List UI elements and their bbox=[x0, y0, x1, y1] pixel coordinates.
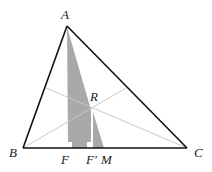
label-R: R bbox=[89, 89, 98, 104]
shaded-region-thin-triangle bbox=[93, 112, 104, 148]
label-C: C bbox=[194, 145, 203, 160]
cevian-from-C bbox=[46, 88, 187, 148]
label-F: F bbox=[60, 152, 70, 167]
label-M: M bbox=[100, 152, 113, 167]
shaded-region-main bbox=[67, 27, 91, 148]
triangle-diagram: A B C R F F′ M bbox=[0, 0, 212, 172]
label-F-prime: F′ bbox=[85, 152, 97, 167]
label-A: A bbox=[60, 7, 69, 22]
edge-AB bbox=[23, 26, 67, 148]
label-B: B bbox=[9, 145, 17, 160]
